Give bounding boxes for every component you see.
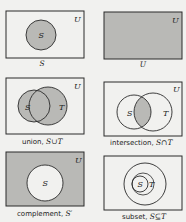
universe-label: U [74, 15, 81, 24]
panel-complement: S U complement, S′ [6, 152, 84, 218]
universe-rect [104, 12, 182, 59]
universe-label: U [173, 85, 180, 94]
panel-set-s: S U S [6, 11, 84, 68]
universe-label: U [172, 16, 179, 25]
caption: intersection, S∩T [110, 138, 173, 147]
set-s-label: S [39, 31, 45, 40]
caption-symbol: U [140, 60, 147, 69]
set-t-label: T [163, 109, 169, 118]
outer-ring-circle [124, 163, 166, 205]
set-s-label: S [43, 179, 49, 188]
set-s-label: S [138, 180, 144, 189]
set-t-label: T [59, 103, 65, 112]
panel-universe: U U [104, 12, 182, 69]
set-s-label: S [25, 103, 31, 112]
caption-symbol: S [39, 59, 44, 68]
universe-rect [104, 156, 182, 210]
panel-intersection: S T U intersection, S∩T [104, 82, 182, 147]
set-s-label: S [127, 109, 133, 118]
universe-label: U [74, 82, 81, 91]
universe-label: U [75, 156, 82, 165]
caption: complement, S′ [17, 209, 73, 218]
set-t-label: T [149, 180, 155, 189]
caption: subset, S⊆T [122, 212, 167, 221]
panel-subset: S T subset, S⊆T [104, 156, 182, 221]
panel-union: S T U union, S∪T [6, 78, 84, 146]
venn-diagrams: S U S U U S T U union, S∪T S T U interse… [0, 0, 186, 222]
caption: union, S∪T [22, 137, 63, 146]
